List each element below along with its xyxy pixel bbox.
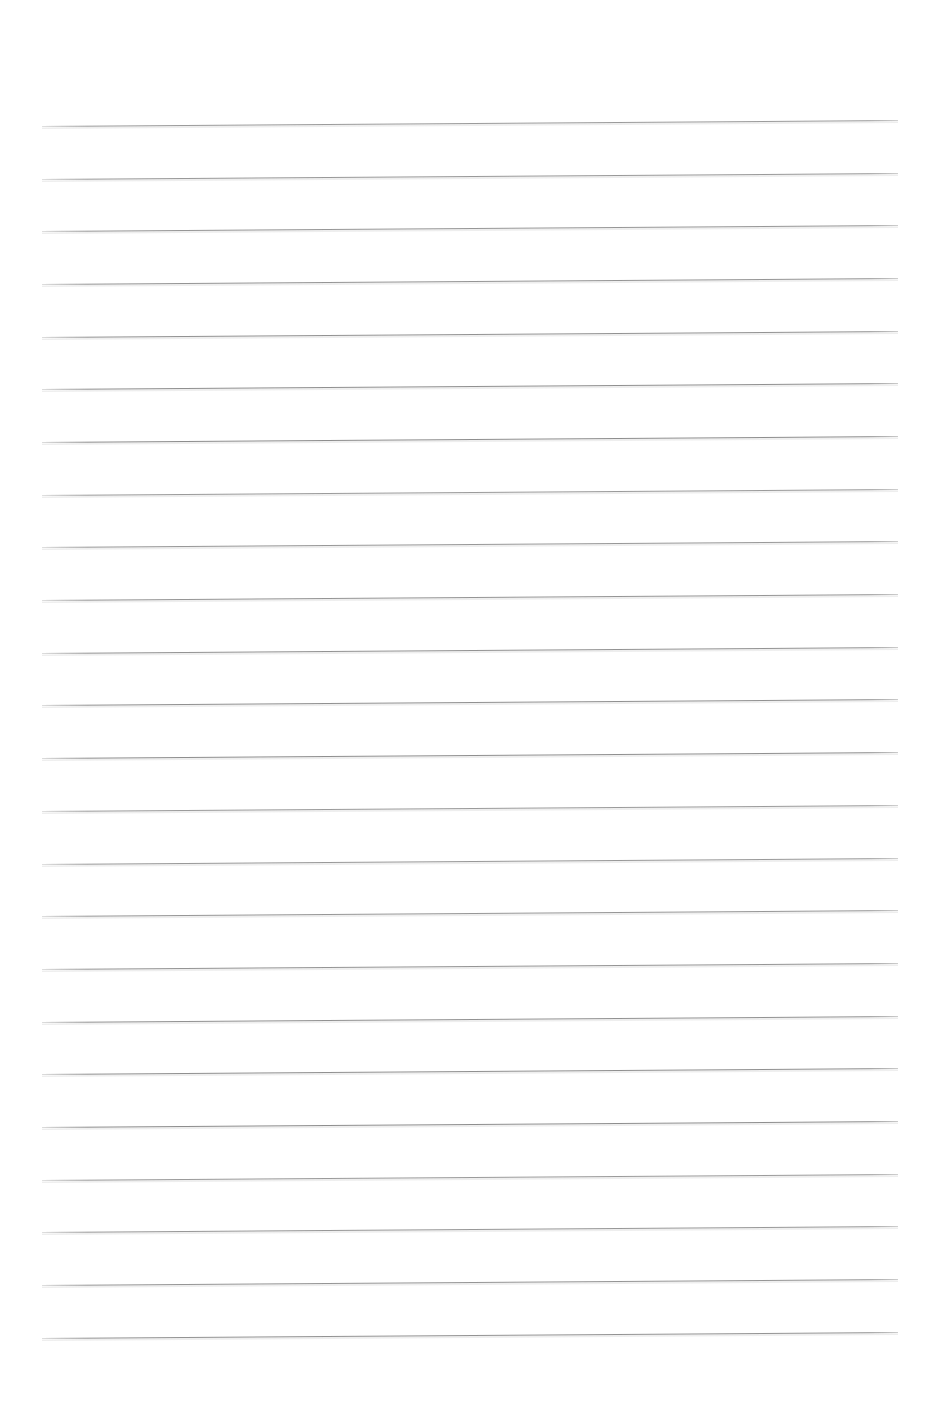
ruled-lines-group [0,0,944,1409]
scanned-page [0,0,944,1409]
